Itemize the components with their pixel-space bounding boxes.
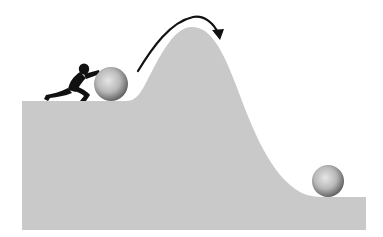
terrain-hill xyxy=(22,27,366,230)
arrow-head-icon xyxy=(212,29,224,40)
illustration xyxy=(0,0,383,237)
person-pushing xyxy=(44,63,100,101)
ball-downhill xyxy=(312,165,344,197)
ball-uphill xyxy=(94,67,128,101)
illustration-canvas xyxy=(0,0,383,237)
